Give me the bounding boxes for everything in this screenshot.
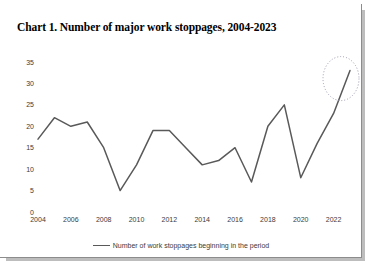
x-axis-tick-label: 2004 bbox=[30, 216, 46, 223]
series-line-number-of-work-stoppages bbox=[38, 71, 350, 191]
x-axis-tick-label: 2022 bbox=[326, 216, 342, 223]
legend-line-swatch bbox=[93, 245, 110, 246]
x-axis: 2004200620082010201220142016201820202022 bbox=[0, 216, 362, 230]
figure-shadow-bottom bbox=[6, 258, 365, 261]
x-axis-tick-label: 2008 bbox=[96, 216, 112, 223]
legend-label: Number of work stoppages beginning in th… bbox=[113, 242, 269, 249]
x-axis-tick-label: 2014 bbox=[194, 216, 210, 223]
x-axis-tick-label: 2018 bbox=[260, 216, 276, 223]
x-axis-tick-label: 2016 bbox=[227, 216, 243, 223]
x-axis-tick-label: 2010 bbox=[129, 216, 145, 223]
x-axis-tick-label: 2020 bbox=[293, 216, 309, 223]
x-axis-tick-label: 2006 bbox=[63, 216, 79, 223]
x-axis-tick-label: 2012 bbox=[162, 216, 178, 223]
plot-area: 05101520253035 2004200620082010201220142… bbox=[0, 4, 362, 258]
chart-legend: Number of work stoppages beginning in th… bbox=[0, 242, 362, 249]
figure-shadow-right bbox=[362, 10, 365, 260]
chart-figure: Chart 1. Number of major work stoppages,… bbox=[0, 4, 362, 258]
